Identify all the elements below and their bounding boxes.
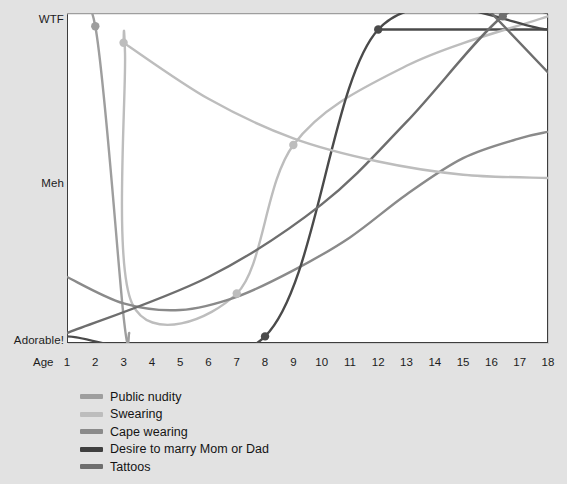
legend-item-desire-to-marry-mom-or-dad[interactable]: Desire to marry Mom or Dad: [80, 441, 269, 459]
marker-desire-to-marry-mom-or-dad-1: [374, 25, 382, 33]
series-line-cape-wearing: [67, 132, 548, 310]
legend-label: Public nudity: [110, 390, 182, 404]
legend-swatch-icon: [80, 464, 103, 469]
legend-swatch-icon: [80, 412, 103, 417]
legend-swatch-icon: [80, 394, 103, 399]
x-tick-17: 17: [513, 356, 526, 368]
x-tick-16: 16: [485, 356, 498, 368]
x-tick-4: 4: [149, 356, 155, 368]
x-tick-11: 11: [344, 356, 356, 368]
descending-diagonal: [491, 13, 548, 72]
y-axis-label-wtf: WTF: [39, 13, 64, 25]
y-axis-label-adorable: Adorable!: [14, 334, 64, 346]
chart-stage: WTF Meh Adorable! Age 123456789101112131…: [0, 0, 567, 484]
legend-item-swearing[interactable]: Swearing: [80, 406, 269, 424]
marker-swearing-1: [233, 289, 241, 297]
marker-swearing-0: [119, 39, 127, 47]
marker-desire-to-marry-mom-or-dad-0: [261, 332, 269, 340]
x-tick-15: 15: [457, 356, 470, 368]
x-tick-9: 9: [290, 356, 296, 368]
x-tick-7: 7: [234, 356, 240, 368]
x-tick-2: 2: [92, 356, 98, 368]
chart-plot: [67, 13, 548, 343]
legend-item-cape-wearing[interactable]: Cape wearing: [80, 423, 269, 441]
x-tick-10: 10: [315, 356, 328, 368]
x-axis-title: Age: [33, 356, 53, 368]
legend-item-public-nudity[interactable]: Public nudity: [80, 388, 269, 406]
x-tick-1: 1: [64, 356, 70, 368]
legend-label: Cape wearing: [110, 425, 188, 439]
marker-public-nudity-0: [91, 22, 99, 30]
legend-item-tattoos[interactable]: Tattoos: [80, 458, 269, 476]
legend-swatch-icon: [80, 429, 103, 434]
x-tick-6: 6: [205, 356, 211, 368]
y-axis-label-meh: Meh: [41, 177, 64, 189]
x-tick-14: 14: [428, 356, 441, 368]
series-line-swearing-decline: [124, 43, 548, 178]
legend-label: Tattoos: [110, 460, 151, 474]
legend-swatch-icon: [80, 447, 103, 452]
x-tick-3: 3: [120, 356, 126, 368]
legend-label: Desire to marry Mom or Dad: [110, 442, 269, 456]
x-tick-8: 8: [262, 356, 268, 368]
marker-swearing-2: [289, 141, 297, 149]
series-line-tattoos: [67, 13, 548, 333]
x-tick-5: 5: [177, 356, 183, 368]
series-line-desire-to-marry-mom-or-dad: [67, 13, 548, 343]
series-line-swearing: [122, 16, 548, 325]
x-tick-18: 18: [542, 356, 555, 368]
x-tick-13: 13: [400, 356, 413, 368]
chart-legend: Public nuditySwearingCape wearingDesire …: [80, 388, 269, 476]
legend-label: Swearing: [110, 407, 163, 421]
x-tick-12: 12: [372, 356, 385, 368]
